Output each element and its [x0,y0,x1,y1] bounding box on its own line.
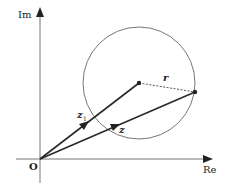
real-axis-label: Re [203,164,217,175]
center-point [137,81,141,85]
real-axis-arrow-icon [203,155,213,163]
circle-point [193,90,197,94]
z-label: z [118,124,125,135]
svg-text:1: 1 [83,115,87,122]
argand-diagram: Im Re O r z 1 z [0,0,226,194]
imaginary-axis-label: Im [18,9,32,20]
imaginary-axis-arrow-icon [36,7,44,17]
radius-label: r [163,72,169,83]
origin-label: O [29,161,38,172]
z1-label: z 1 [76,109,87,122]
radius-line [139,83,195,92]
svg-text:z: z [76,109,83,120]
vector-z1 [40,83,139,159]
